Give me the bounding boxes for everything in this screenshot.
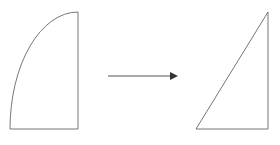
quarter-ellipse-region-path [10,12,78,129]
diagram-canvas: Quarter ellipse region transformed into … [0,0,280,145]
transformation-arrow-group [108,72,178,80]
left-shape-group [10,12,78,129]
right-shape-group [196,12,268,129]
arrow-head-icon [170,72,178,80]
shape-transformation-diagram: Quarter ellipse region transformed into … [0,0,280,145]
right-triangle-path [196,12,268,129]
